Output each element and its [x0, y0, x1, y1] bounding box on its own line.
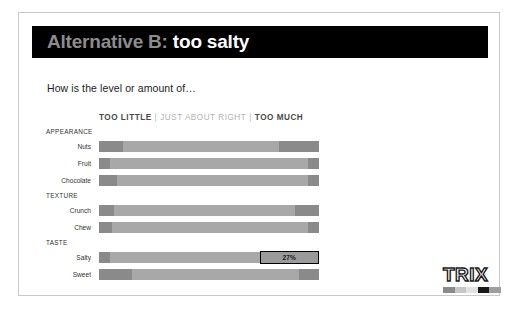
chart-bar-row: Sweet — [19, 268, 501, 285]
bar-segment-too-much — [308, 175, 319, 186]
chart-bar-row: Crunch — [19, 204, 501, 221]
chart-bar-track — [99, 269, 319, 280]
bar-data-label: 27% — [282, 254, 296, 261]
slide-canvas: Alternative B: too salty How is the leve… — [18, 12, 500, 296]
chart-bar-track — [99, 141, 319, 152]
title-descriptor: too salty — [173, 31, 249, 52]
bar-segment-too-little — [99, 175, 117, 186]
bar-segment-too-little — [99, 205, 114, 216]
chart-legend: TOO LITTLE|JUST ABOUT RIGHT|TOO MUCH — [99, 113, 303, 122]
chart-bar-label: Chocolate — [19, 177, 91, 184]
chart-bar-track — [99, 205, 319, 216]
logo-swatch — [489, 287, 501, 293]
legend-item-too-little: TOO LITTLE — [99, 113, 152, 122]
chart-group-header: TEXTURE — [19, 191, 501, 204]
chart-group-label: TEXTURE — [46, 192, 78, 199]
bar-segment-just-about-right — [114, 205, 294, 216]
legend-item-too-much: TOO MUCH — [255, 113, 303, 122]
logo-swatch — [443, 287, 455, 293]
chart-group-label: TASTE — [46, 239, 68, 246]
bar-segment-too-much — [295, 205, 319, 216]
legend-separator-1: | — [152, 113, 161, 122]
chart-bar-track — [99, 175, 319, 186]
chart-bar-label: Fruit — [19, 160, 91, 167]
title-colon: : — [162, 31, 168, 52]
chart-bar-label: Crunch — [19, 207, 91, 214]
trix-wordmark: TRIX — [443, 265, 503, 285]
chart-group-label: APPEARANCE — [46, 128, 93, 135]
title-alternative-label: Alternative B — [47, 31, 162, 52]
bar-segment-too-little — [99, 269, 132, 280]
chart-bar-row: Salty27% — [19, 251, 501, 268]
bar-segment-just-about-right — [110, 158, 308, 169]
chart-bar-track — [99, 158, 319, 169]
logo-swatch — [466, 287, 478, 293]
bar-segment-too-little — [99, 158, 110, 169]
bar-segment-just-about-right — [123, 141, 279, 152]
chart-bar-label: Salty — [19, 254, 91, 261]
slide-title-bar: Alternative B: too salty — [32, 26, 488, 58]
page-title: Alternative B: too salty — [32, 31, 249, 53]
legend-separator-2: | — [246, 113, 255, 122]
bar-segment-too-much — [279, 141, 319, 152]
bar-segment-too-little — [99, 222, 112, 233]
trix-logo: TRIX — [443, 265, 503, 293]
bar-segment-too-much — [308, 222, 319, 233]
chart-bar-track — [99, 222, 319, 233]
bar-segment-too-little — [99, 141, 123, 152]
bar-segment-too-little — [99, 252, 110, 263]
bar-segment-just-about-right — [112, 222, 308, 233]
chart-group-header: APPEARANCE — [19, 127, 501, 140]
chart-bar-row: Chocolate — [19, 174, 501, 191]
chart-group-header: TASTE — [19, 238, 501, 251]
bar-segment-too-much-highlighted: 27% — [260, 251, 319, 264]
chart-bar-row: Chew — [19, 221, 501, 238]
bar-segment-just-about-right — [117, 175, 308, 186]
chart-bar-row: Nuts — [19, 140, 501, 157]
bar-segment-too-much — [308, 158, 319, 169]
chart-bar-track: 27% — [99, 252, 319, 263]
question-subtitle: How is the level or amount of… — [47, 82, 196, 94]
logo-swatch — [478, 287, 490, 293]
logo-swatch — [455, 287, 467, 293]
logo-swatch-strip — [443, 287, 501, 293]
chart-bar-label: Sweet — [19, 271, 91, 278]
legend-item-just-about-right: JUST ABOUT RIGHT — [160, 113, 246, 122]
bar-segment-just-about-right — [110, 252, 260, 263]
bar-segment-too-much — [299, 269, 319, 280]
chart-bar-label: Chew — [19, 224, 91, 231]
chart-bar-row: Fruit — [19, 157, 501, 174]
bar-chart: APPEARANCENutsFruitChocolateTEXTURECrunc… — [19, 127, 501, 285]
chart-bar-label: Nuts — [19, 143, 91, 150]
bar-segment-just-about-right — [132, 269, 299, 280]
